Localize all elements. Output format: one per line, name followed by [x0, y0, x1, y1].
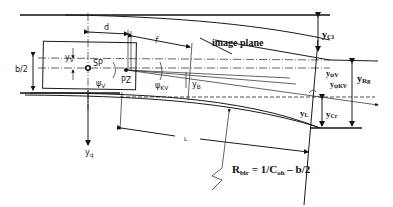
label-yq: yq — [85, 148, 94, 159]
lane-center-axis — [38, 58, 330, 60]
label-psi-kv: ψKV — [155, 81, 169, 91]
label-sp: SP — [93, 59, 103, 68]
label-psi-v: ψV — [96, 79, 106, 89]
radius-formula: Rblr = 1/Coh – b/2 — [232, 163, 311, 177]
label-b-half: b/2 — [15, 65, 28, 74]
label-d: d — [104, 23, 109, 32]
label-ycr: yCr — [326, 109, 338, 119]
label-ycl: yCl — [322, 29, 334, 41]
label-y-psi-v: yψV — [326, 69, 339, 78]
label-y-psi-kv: yψKV — [330, 80, 348, 89]
image-plane-label: image plane — [212, 37, 264, 48]
label-yb: yB — [192, 80, 201, 90]
label-pz: PZ — [121, 76, 132, 85]
left-lane-boundary — [20, 15, 330, 40]
label-L: L — [184, 135, 188, 142]
radius-leader — [212, 112, 229, 190]
label-yl: yL — [300, 108, 309, 118]
d-dimension — [88, 32, 128, 34]
lane-geometry-diagram: d f b/2 yV SP PZ ψV ψKV yB yq L yCl yRg … — [0, 0, 393, 207]
f-dimension — [132, 36, 190, 47]
pz-point — [124, 68, 128, 72]
label-yrg: yRg — [357, 73, 371, 85]
